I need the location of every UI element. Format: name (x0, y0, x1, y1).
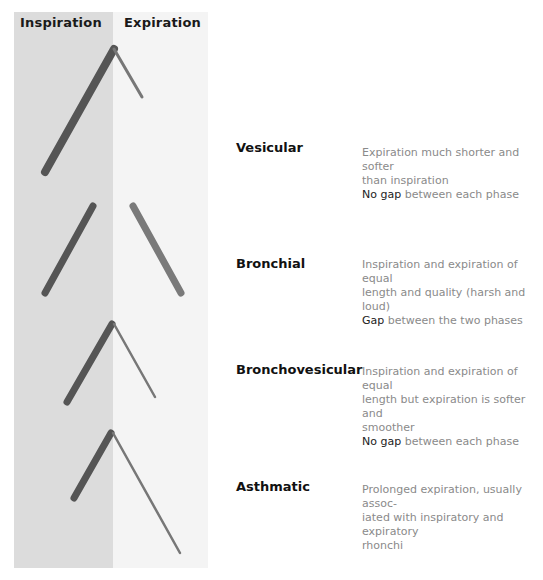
sound-name-vesicular: Vesicular (236, 140, 303, 155)
bronchial-waveform (45, 206, 181, 293)
desc-line: length but expiration is softer and (362, 393, 542, 421)
gap-line: No gap between each phase (362, 435, 542, 449)
desc-line: smoother (362, 421, 542, 435)
vesicular-waveform (45, 49, 142, 172)
gap-emphasis: Gap (362, 314, 384, 327)
desc-line: Expiration much shorter and softer (362, 146, 542, 174)
desc-line: Inspiration and expiration of equal (362, 365, 542, 393)
sound-desc-bronchial: Inspiration and expiration of equal leng… (362, 258, 542, 328)
sound-desc-vesicular: Expiration much shorter and softer than … (362, 146, 542, 202)
desc-line: rhonchi (362, 539, 542, 553)
sound-name-bronchovesicular: Bronchovesicular (236, 362, 362, 377)
sound-desc-asthmatic: Prolonged expiration, usually assoc- iat… (362, 483, 542, 553)
gap-line: No gap between each phase (362, 188, 542, 202)
gap-emphasis: No gap (362, 435, 401, 448)
desc-line: iated with inspiratory and expiratory (362, 511, 542, 539)
desc-line: than inspiration (362, 174, 542, 188)
asthmatic-waveform (74, 433, 180, 553)
gap-rest: between each phase (401, 435, 519, 448)
sound-desc-bronchovesicular: Inspiration and expiration of equal leng… (362, 365, 542, 449)
desc-line: length and quality (harsh and loud) (362, 286, 542, 314)
sound-name-asthmatic: Asthmatic (236, 479, 310, 494)
desc-line: Prolonged expiration, usually assoc- (362, 483, 542, 511)
sound-name-bronchial: Bronchial (236, 256, 305, 271)
gap-emphasis: No gap (362, 188, 401, 201)
desc-line: Inspiration and expiration of equal (362, 258, 542, 286)
gap-rest: between the two phases (384, 314, 523, 327)
gap-rest: between each phase (401, 188, 519, 201)
gap-line: Gap between the two phases (362, 314, 542, 328)
bronchovesicular-waveform (67, 324, 155, 402)
